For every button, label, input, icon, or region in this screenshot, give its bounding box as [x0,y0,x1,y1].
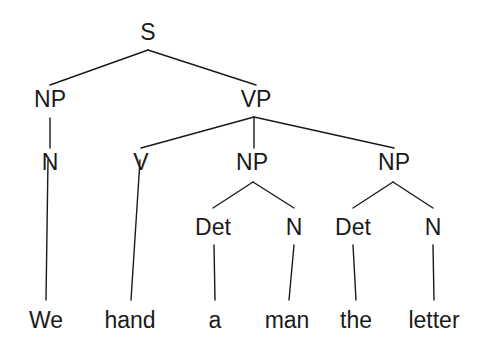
leaf-a: a [209,307,222,333]
node-s: S [140,19,155,45]
node-v: V [133,149,149,175]
node-vp: VP [241,86,272,112]
leaf-man: man [265,307,310,333]
syntax-tree-diagram: S NP VP N V NP NP Det N Det N We hand a … [0,0,489,348]
edge-det-to-a [214,245,215,300]
node-n-man: N [286,214,303,240]
node-np-object2: NP [378,149,410,175]
leaf-we: We [29,307,63,333]
leaf-hand: hand [104,307,155,333]
node-det-the: Det [335,214,371,240]
leaf-letter: letter [408,307,459,333]
node-np-subject: NP [34,86,66,112]
edge-n-to-letter [433,245,434,300]
node-det-a: Det [195,214,231,240]
node-n-letter: N [425,214,442,240]
leaf-the: the [340,307,372,333]
node-n-subject: N [42,149,59,175]
node-np-object1: NP [236,149,268,175]
